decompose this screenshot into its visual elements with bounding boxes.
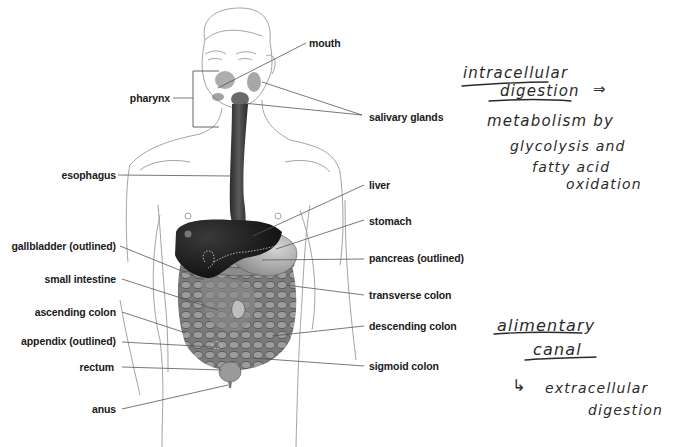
note2-body-line1: extracellular <box>545 380 649 396</box>
note1-body-line3: fatty acid <box>532 159 610 175</box>
label-small-intestine: small intestine <box>0 273 116 285</box>
arrow-right-icon: ⇒ <box>593 80 607 98</box>
label-transverse-colon: transverse colon <box>369 289 451 301</box>
digestive-system-diagram: pharynx esophagus gallbladder (outlined)… <box>0 0 691 447</box>
label-descending-colon: descending colon <box>369 320 457 332</box>
label-esophagus: esophagus <box>20 169 116 181</box>
label-mouth: mouth <box>309 37 341 49</box>
label-appendix: appendix (outlined) <box>0 335 116 347</box>
label-liver: liver <box>369 179 390 191</box>
note1-body-line4: oxidation <box>566 176 642 192</box>
label-pancreas: pancreas (outlined) <box>369 252 464 264</box>
label-gallbladder: gallbladder (outlined) <box>0 240 116 252</box>
label-rectum: rectum <box>0 361 114 373</box>
label-pharynx: pharynx <box>100 92 170 104</box>
note2-heading-line2: canal <box>533 340 582 359</box>
note2-body-line2: digestion <box>588 402 663 418</box>
note1-body-line1: metabolism by <box>487 112 614 130</box>
note1-heading-line1: intracellular <box>463 64 568 82</box>
label-ascending-colon: ascending colon <box>0 306 116 318</box>
label-anus: anus <box>0 403 116 415</box>
note1-body-line2: glycolysis and <box>510 138 626 154</box>
note1-heading-line2: digestion <box>500 82 580 100</box>
label-sigmoid-colon: sigmoid colon <box>369 360 439 372</box>
hook-arrow-icon: ↳ <box>512 376 527 395</box>
label-stomach: stomach <box>369 215 411 227</box>
note2-heading-line1: alimentary <box>497 316 595 335</box>
label-salivary-glands: salivary glands <box>369 111 443 123</box>
esophagus-organ <box>230 104 248 232</box>
